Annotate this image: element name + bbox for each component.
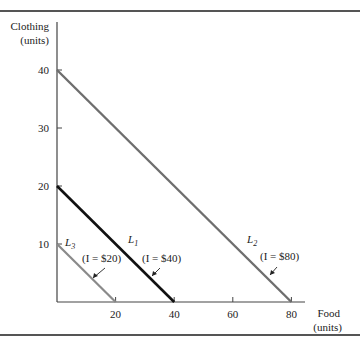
line-label-L3: L3 <box>64 236 75 251</box>
labels: L3(I = $20)L1(I = $40)L2(I = $80) <box>64 233 300 278</box>
y-tick-label: 10 <box>38 238 50 250</box>
budget-lines <box>57 70 291 302</box>
x-tick-label: 60 <box>227 308 239 320</box>
income-label-L2: (I = $80) <box>260 250 300 263</box>
income-label-L3: (I = $20) <box>82 252 122 265</box>
x-axis-label-units: (units) <box>313 321 342 334</box>
arrowhead-icon <box>93 273 98 278</box>
y-tick-label: 40 <box>38 64 50 76</box>
y-axis-label: Clothing <box>10 20 49 32</box>
x-tick-label: 40 <box>169 308 181 320</box>
budget-line-L2 <box>57 70 291 302</box>
budget-lines-chart: 2040608010203040Clothing(units)Food(unit… <box>0 0 360 344</box>
y-axis-label-units: (units) <box>20 34 49 47</box>
x-tick-label: 80 <box>286 308 298 320</box>
x-axis-label: Food <box>317 307 340 319</box>
y-tick-label: 20 <box>38 180 50 192</box>
income-label-L1: (I = $40) <box>142 252 182 265</box>
x-tick-label: 20 <box>110 308 122 320</box>
y-tick-label: 30 <box>38 122 50 134</box>
line-label-L2: L2 <box>246 233 257 248</box>
axes: 2040608010203040Clothing(units)Food(unit… <box>10 20 342 334</box>
line-label-L1: L1 <box>127 233 138 248</box>
